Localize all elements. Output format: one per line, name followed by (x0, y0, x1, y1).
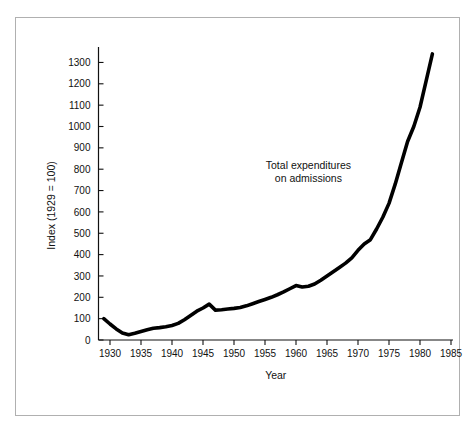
x-tick-label: 1935 (130, 348, 153, 359)
annotation-line-2: on admissions (275, 172, 342, 184)
y-axis-title: Index (1929 = 100) (45, 161, 57, 249)
x-tick-label: 1940 (161, 348, 184, 359)
y-tick-label: 200 (74, 292, 91, 303)
y-tick-label: 1200 (68, 78, 91, 89)
y-tick-label: 700 (74, 185, 91, 196)
y-tick-label: 400 (74, 249, 91, 260)
y-tick-label: 1300 (68, 57, 91, 68)
x-tick-labels: 1930193519401945195019551960196519701975… (99, 340, 463, 359)
y-tick-label: 1100 (69, 100, 91, 111)
x-tick-label: 1965 (316, 348, 339, 359)
chart-canvas: 0100200300400500600700800900100011001200… (0, 0, 476, 428)
x-tick-label: 1950 (223, 348, 246, 359)
y-tick-label: 800 (74, 164, 91, 175)
y-tick-label: 600 (74, 207, 91, 218)
y-tick-label: 0 (85, 335, 91, 346)
x-axis-title: Year (265, 369, 287, 381)
x-tick-label: 1985 (440, 348, 463, 359)
x-tick-label: 1975 (378, 348, 401, 359)
annotation-line-1: Total expenditures (266, 159, 351, 171)
x-tick-label: 1980 (409, 348, 432, 359)
x-tick-label: 1955 (254, 348, 277, 359)
y-tick-label: 1000 (68, 121, 91, 132)
x-tick-label: 1945 (192, 348, 215, 359)
y-tick-label: 500 (74, 228, 91, 239)
y-tick-label: 100 (74, 313, 91, 324)
x-tick-label: 1960 (285, 348, 308, 359)
x-tick-label: 1970 (347, 348, 370, 359)
x-tick-label: 1930 (99, 348, 122, 359)
data-line-total-expenditures (104, 54, 433, 335)
figure-root: 0100200300400500600700800900100011001200… (0, 0, 476, 428)
y-tick-label: 300 (74, 271, 91, 282)
y-tick-label: 900 (74, 142, 91, 153)
